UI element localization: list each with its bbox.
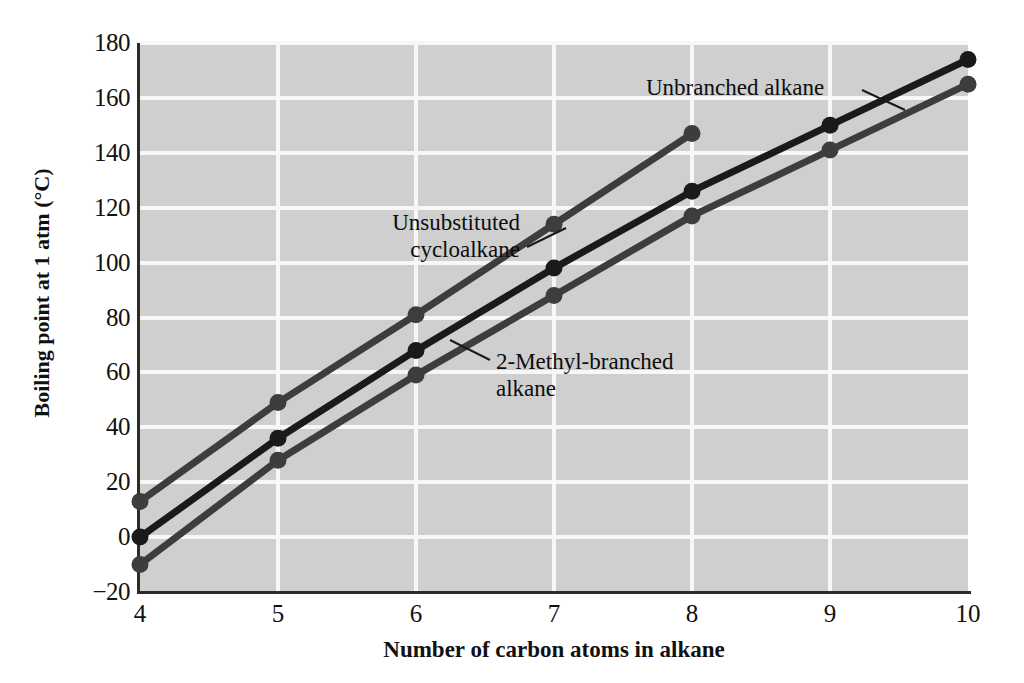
- y-tick-label: 120: [74, 195, 130, 220]
- x-tick-label: 8: [672, 599, 712, 629]
- x-tick-label: 4: [120, 599, 160, 629]
- gridline-vertical: [414, 43, 418, 592]
- gridline-vertical: [276, 43, 280, 592]
- x-tick-label: 6: [396, 599, 436, 629]
- y-axis-line: [137, 43, 140, 594]
- x-axis-title: Number of carbon atoms in alkane: [140, 637, 968, 663]
- y-tick-label: 0: [74, 524, 130, 549]
- y-axis-tick-labels: −20020406080100120140160180: [64, 43, 130, 592]
- gridline-vertical: [552, 43, 556, 592]
- y-tick-label: 80: [74, 305, 130, 330]
- x-tick-label: 10: [948, 599, 988, 629]
- annotation-2-methyl-branched-alkane: 2-Methyl-branched alkane: [496, 348, 796, 402]
- gridline-vertical: [828, 43, 832, 592]
- annotation-unsubstituted-cycloalkane: Unsubstituted cycloalkane: [230, 209, 520, 263]
- y-tick-label: 60: [74, 359, 130, 384]
- y-tick-label: 160: [74, 85, 130, 110]
- annotation-unbranched-alkane: Unbranched alkane: [646, 74, 824, 101]
- y-axis-title: Boiling point at 1 atm (°C): [29, 83, 55, 503]
- y-tick-label: 140: [74, 140, 130, 165]
- x-axis-tick-labels: 45678910: [140, 599, 968, 635]
- y-tick-label: 100: [74, 250, 130, 275]
- x-tick-label: 9: [810, 599, 850, 629]
- gridline-vertical: [690, 43, 694, 592]
- chart-figure: −20020406080100120140160180 45678910 Boi…: [0, 0, 1024, 683]
- y-tick-label: 180: [74, 30, 130, 55]
- x-tick-label: 7: [534, 599, 574, 629]
- x-axis-line: [137, 591, 971, 594]
- y-tick-label: 20: [74, 469, 130, 494]
- y-axis-title-wrap: Boiling point at 1 atm (°C): [0, 0, 1, 1]
- y-tick-label: 40: [74, 414, 130, 439]
- plot-area: [140, 43, 968, 592]
- x-tick-label: 5: [258, 599, 298, 629]
